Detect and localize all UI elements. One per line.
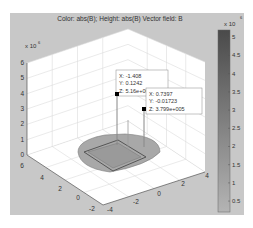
x-tick-label: -4 (107, 206, 113, 213)
data-tip-text: Z: 3.799e+005 (149, 106, 185, 112)
z-exponent-label: x 10 (25, 43, 37, 49)
y-tick-label: 0 (76, 194, 80, 201)
data-tip-marker[interactable] (115, 92, 119, 96)
data-tip[interactable]: X: 0.7397Y: -0.01723Z: 3.799e+005 (142, 88, 202, 114)
x-tick-label: -2 (133, 198, 139, 205)
colorbar-tick-label: 3.5 (232, 89, 241, 95)
x-tick-label: 2 (181, 180, 185, 187)
colorbar-tick-label: 2.5 (232, 125, 241, 131)
y-tick-label: -2 (89, 205, 95, 212)
y-tick-label: 4 (40, 174, 44, 181)
x-tick-label: 0 (157, 190, 161, 197)
z-tick-label: 1 (20, 136, 24, 143)
x-tick-label: 4 (205, 172, 209, 179)
y-tick-label: 6 (20, 162, 24, 169)
figure-window: Color: abs(B); Height: abs(B) Vector fie… (0, 0, 253, 228)
data-tip-marker[interactable] (142, 107, 146, 111)
z-tick-label: 0 (20, 151, 24, 158)
colorbar-tick-label: 0.5 (232, 198, 241, 204)
data-tip-text: X: 0.7397 (149, 91, 173, 97)
colorbar-tick-label: 1.5 (232, 162, 241, 168)
z-tick-label: 4 (20, 90, 24, 97)
data-tip-text: Y: -0.01723 (149, 98, 177, 104)
colorbar-tick-label: 4.5 (232, 52, 241, 58)
data-tip-text: X: -1.408 (119, 73, 141, 79)
z-tick-label: 5 (20, 74, 24, 81)
z-tick-label: 2 (20, 120, 24, 127)
colorbar-exponent-label: x 10 (224, 21, 236, 27)
data-tip-text: Y: 0.1242 (119, 80, 142, 86)
y-tick-label: 2 (58, 185, 62, 192)
chart-title: Color: abs(B); Height: abs(B) Vector fie… (57, 15, 182, 23)
z-tick-label: 6 (20, 59, 24, 66)
colorbar-gradient (218, 30, 230, 212)
z-tick-label: 3 (20, 105, 24, 112)
